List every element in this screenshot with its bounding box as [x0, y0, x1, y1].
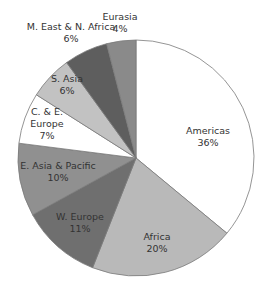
slice-label: Africa20% — [143, 231, 170, 254]
slice-label: M. East & N. Africa6% — [27, 21, 115, 44]
pie-chart: Americas36%Africa20%W. Europe11%E. Asia … — [0, 0, 263, 291]
